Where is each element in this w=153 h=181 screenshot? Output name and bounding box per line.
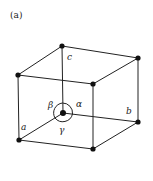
cell-edges	[18, 46, 138, 149]
label-beta: β	[47, 100, 53, 110]
panel-label: (a)	[10, 10, 22, 20]
lattice-points	[15, 43, 140, 151]
origin-point	[60, 110, 66, 116]
label-gamma: γ	[59, 125, 65, 135]
label-a: a	[21, 122, 26, 132]
label-c: c	[67, 52, 72, 62]
label-alpha: α	[76, 99, 82, 109]
label-b: b	[126, 106, 132, 116]
unit-cell-diagram: (a) c β α b a γ	[0, 0, 153, 181]
